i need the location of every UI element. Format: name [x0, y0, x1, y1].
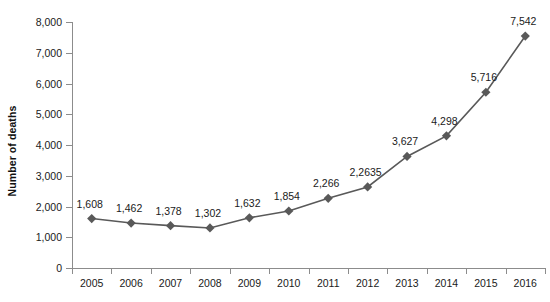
series-polyline	[92, 36, 526, 228]
line-chart: Number of deaths 01,0002,0003,0004,0005,…	[0, 0, 550, 302]
data-point-marker	[127, 218, 136, 227]
data-point-label: 7,542	[510, 15, 536, 27]
data-point-label: 5,716	[471, 71, 497, 83]
data-point-label: 1,608	[77, 198, 103, 210]
data-point-label: 4,298	[431, 115, 457, 127]
data-point-marker	[245, 213, 254, 222]
data-point-label: 1,632	[234, 197, 260, 209]
data-point-label: 2,266	[313, 177, 339, 189]
series-line	[0, 0, 550, 302]
data-point-marker	[205, 223, 214, 232]
data-point-marker	[87, 214, 96, 223]
data-point-label: 1,378	[155, 205, 181, 217]
data-point-label: 1,302	[195, 207, 221, 219]
data-point-label: 1,854	[274, 190, 300, 202]
data-point-label: 2,2635	[350, 166, 382, 178]
data-point-label: 1,462	[116, 202, 142, 214]
data-point-marker	[324, 194, 333, 203]
data-point-label: 3,627	[392, 135, 418, 147]
data-point-marker	[284, 206, 293, 215]
data-point-marker	[166, 221, 175, 230]
